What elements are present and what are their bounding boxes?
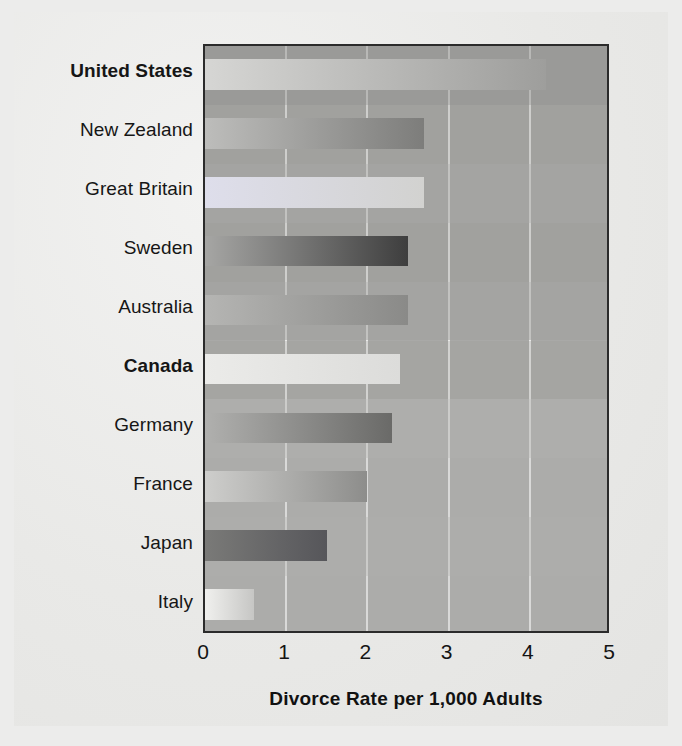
bar <box>205 118 424 149</box>
bar <box>205 530 327 561</box>
x-tick-4: 4 <box>508 640 548 664</box>
x-tick-3: 3 <box>427 640 467 664</box>
category-label-canada: Canada <box>3 355 193 377</box>
row-band <box>205 576 607 633</box>
bar-row <box>205 576 607 633</box>
category-axis-labels: United StatesNew ZealandGreat BritainSwe… <box>0 44 193 633</box>
bar <box>205 236 408 267</box>
category-label-japan: Japan <box>3 532 193 554</box>
x-tick-1: 1 <box>264 640 304 664</box>
bar <box>205 354 400 385</box>
x-axis-title: Divorce Rate per 1,000 Adults <box>203 688 609 710</box>
category-label-australia: Australia <box>3 296 193 318</box>
category-label-germany: Germany <box>3 414 193 436</box>
figure-canvas: United StatesNew ZealandGreat BritainSwe… <box>0 0 682 746</box>
category-label-france: France <box>3 473 193 495</box>
bar <box>205 59 546 90</box>
value-axis-ticks: 012345 <box>203 640 609 670</box>
category-label-sweden: Sweden <box>3 237 193 259</box>
bar <box>205 471 367 502</box>
category-label-united-states: United States <box>3 60 193 82</box>
plot-area <box>203 44 609 633</box>
bar <box>205 177 424 208</box>
x-tick-0: 0 <box>183 640 223 664</box>
bar <box>205 413 392 444</box>
x-tick-2: 2 <box>345 640 385 664</box>
category-label-great-britain: Great Britain <box>3 178 193 200</box>
bar <box>205 589 254 620</box>
x-tick-5: 5 <box>589 640 629 664</box>
category-label-italy: Italy <box>3 591 193 613</box>
category-label-new-zealand: New Zealand <box>3 119 193 141</box>
bar <box>205 295 408 326</box>
